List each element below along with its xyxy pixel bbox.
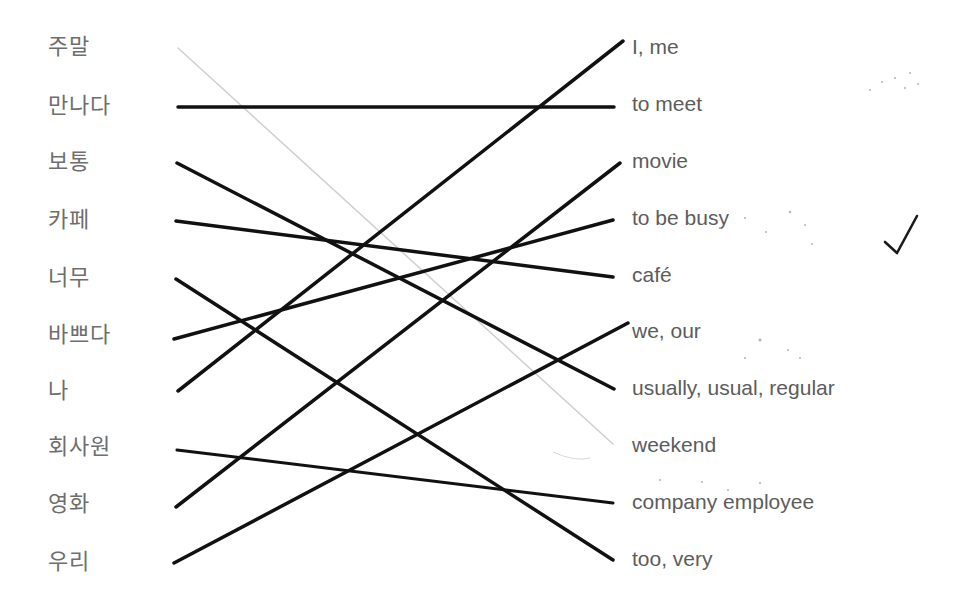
checkmark-icon: [0, 0, 966, 614]
faint-curve-mark: [553, 452, 590, 459]
scan-speckles: [659, 72, 919, 491]
